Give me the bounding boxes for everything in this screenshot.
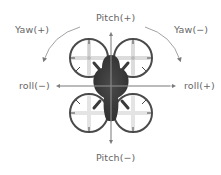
roll-plus-label: roll(+): [184, 81, 215, 91]
propeller-bottom-right-icon: [114, 94, 152, 132]
yaw-plus-label: Yaw(+): [15, 25, 49, 35]
yaw-minus-label: Yaw(−): [174, 25, 208, 35]
pitch-minus-label: Pitch(−): [96, 153, 135, 163]
pitch-plus-label: Pitch(+): [96, 13, 135, 23]
roll-minus-label: roll(−): [19, 81, 50, 91]
propeller-bottom-left-icon: [70, 94, 108, 132]
